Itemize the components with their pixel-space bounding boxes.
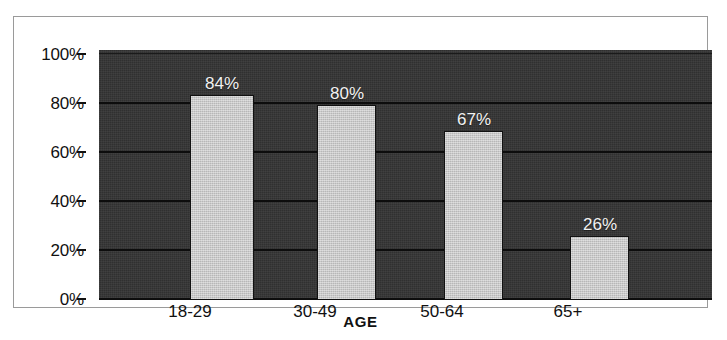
x-axis-title: AGE: [13, 313, 708, 330]
y-tick-label-0: 0%: [22, 290, 84, 310]
y-tick-mark-60: [77, 151, 86, 153]
bar-value-50-64: 67%: [432, 110, 516, 130]
bar-18-29[interactable]: [190, 95, 254, 300]
gridline-100: [99, 53, 712, 54]
bar-value-18-29: 84%: [180, 74, 264, 94]
bar-50-64[interactable]: [444, 131, 503, 300]
y-tick-mark-80: [77, 102, 86, 104]
bar-65plus[interactable]: [570, 236, 629, 300]
y-tick-mark-100: [77, 53, 86, 55]
bar-30-49[interactable]: [317, 105, 376, 300]
y-tick-label-20: 20%: [22, 241, 84, 261]
y-tick-mark-0: [77, 298, 86, 300]
y-tick-label-100: 100%: [22, 45, 84, 65]
y-axis: 100% 80% 60% 40% 20% 0%: [14, 17, 84, 309]
y-tick-mark-40: [77, 200, 86, 202]
chart-frame: 100% 80% 60% 40% 20% 0%: [13, 16, 708, 308]
bar-value-65plus: 26%: [558, 215, 642, 235]
bar-value-30-49: 80%: [305, 84, 389, 104]
y-tick-label-80: 80%: [22, 94, 84, 114]
y-tick-label-60: 60%: [22, 143, 84, 163]
plot-area: 84% 80% 67% 26%: [99, 50, 712, 300]
y-tick-label-40: 40%: [22, 192, 84, 212]
y-tick-mark-20: [77, 249, 86, 251]
bar-chart-figure: 100% 80% 60% 40% 20% 0%: [0, 0, 727, 340]
